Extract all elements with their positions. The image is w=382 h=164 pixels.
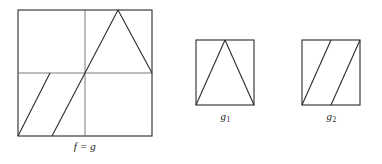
g2-sawtooth-tooth-2 <box>331 40 360 105</box>
g2-panel-label: g2 <box>302 111 360 122</box>
main-panel-group <box>18 10 152 136</box>
g2-panel-group <box>302 40 360 105</box>
g1-triangle-falling-edge <box>225 40 254 105</box>
g1-label-subscript: 1 <box>226 115 230 124</box>
g2-sawtooth-tooth-1 <box>302 40 331 105</box>
main-panel-label: f=g <box>18 141 152 152</box>
g2-label-subscript: 2 <box>332 115 336 124</box>
main-label-equals: = <box>77 140 90 152</box>
figure-canvas <box>0 0 382 164</box>
g2-square-border <box>302 40 360 105</box>
figure-root: f=g g1 g2 <box>0 0 382 164</box>
main-triangle-falling-edge <box>118 10 152 73</box>
g1-panel-group <box>196 40 254 105</box>
g1-square-border <box>196 40 254 105</box>
main-sawtooth-tooth-1 <box>18 73 50 136</box>
main-label-rhs: g <box>90 140 96 152</box>
g1-panel-label: g1 <box>196 111 254 122</box>
g1-triangle-rising-edge <box>196 40 225 105</box>
main-triangle-rising-edge <box>85 10 118 73</box>
main-sawtooth-tooth-2 <box>52 73 85 136</box>
